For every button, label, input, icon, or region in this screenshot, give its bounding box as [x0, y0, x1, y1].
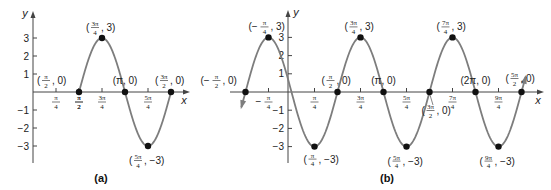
x-tick-label: 5π4 — [403, 94, 411, 111]
y-tick-label: −2 — [18, 123, 30, 134]
svg-text:, −3): , −3) — [319, 154, 339, 165]
y-tick-label: −3 — [18, 141, 30, 152]
x-tick-label: π4 — [311, 94, 319, 111]
x-tick-label: 3π4 — [98, 94, 106, 111]
y-tick-label: 3 — [23, 33, 29, 44]
svg-text:5π: 5π — [403, 94, 411, 102]
svg-text:, 0): , 0) — [52, 75, 66, 86]
panel-caption: (a) — [94, 172, 108, 184]
svg-text:4: 4 — [352, 28, 356, 36]
svg-text:(: ( — [506, 73, 510, 84]
svg-text:π: π — [54, 94, 58, 102]
x-tick-label: π4 — [52, 94, 60, 111]
point-label: (3π2, 0) — [155, 73, 184, 90]
key-point — [242, 89, 248, 95]
svg-text:4: 4 — [313, 103, 317, 111]
x-tick-label: π2 — [75, 94, 83, 111]
panel-a: xy321−1−2−3π4π23π45π4π2(π2, 0)(3π4, 3)(π… — [18, 7, 190, 184]
y-tick-label: 3 — [278, 32, 284, 43]
sine-graphs-figure: xy321−1−2−3π4π23π45π4π2(π2, 0)(3π4, 3)(π… — [0, 0, 551, 190]
y-tick-label: −3 — [273, 141, 285, 152]
svg-text:4: 4 — [93, 29, 97, 37]
point-label: (π, 0) — [113, 75, 138, 86]
svg-text:(π, 0): (π, 0) — [371, 75, 396, 86]
svg-text:5π: 5π — [144, 94, 152, 102]
svg-text:2: 2 — [513, 80, 517, 88]
x-axis-label: x — [534, 94, 541, 106]
key-point — [357, 34, 363, 40]
svg-text:5π: 5π — [393, 154, 401, 162]
svg-text:4: 4 — [405, 103, 409, 111]
svg-text:(: ( — [388, 156, 392, 167]
svg-text:4: 4 — [487, 162, 491, 170]
key-point — [99, 35, 105, 41]
panel-b: xy321−1−2−3π4−π43π45π47π49π4(−π2, 0)(−π4… — [201, 6, 545, 184]
key-point — [265, 34, 271, 40]
svg-text:9π: 9π — [495, 94, 503, 102]
x-tick-label: 5π4 — [144, 94, 152, 111]
svg-text:2: 2 — [44, 82, 48, 90]
svg-text:(−: (− — [201, 75, 210, 86]
y-tick-label: −2 — [273, 123, 285, 134]
point-label: (π2, 0) — [37, 73, 66, 90]
svg-text:−: − — [256, 96, 262, 107]
svg-text:5π: 5π — [511, 71, 519, 79]
x-axis-label: x — [180, 94, 187, 106]
svg-text:2: 2 — [162, 82, 166, 90]
svg-text:, 3): , 3) — [271, 21, 285, 32]
point-label: (2π, 0) — [460, 75, 490, 86]
point-label: (3π4, 3) — [86, 20, 115, 37]
y-tick-label: 1 — [23, 69, 29, 80]
svg-text:π: π — [77, 94, 81, 102]
svg-text:(π, 0): (π, 0) — [113, 75, 138, 86]
y-axis-arrow-icon — [31, 11, 36, 18]
svg-text:3π: 3π — [427, 103, 435, 111]
svg-text:4: 4 — [497, 103, 501, 111]
svg-text:(: ( — [345, 21, 349, 32]
svg-text:7π: 7π — [442, 19, 450, 27]
svg-text:, 3): , 3) — [452, 21, 466, 32]
svg-text:π: π — [311, 152, 315, 160]
svg-text:4: 4 — [267, 103, 271, 111]
svg-text:3π: 3π — [350, 19, 358, 27]
svg-text:, 0): , 0) — [437, 105, 451, 116]
svg-text:, 0): , 0) — [223, 75, 237, 86]
svg-text:π: π — [215, 73, 219, 81]
x-tick-label: 9π4 — [495, 94, 503, 111]
svg-text:4: 4 — [263, 28, 267, 36]
y-tick-label: 2 — [23, 51, 29, 62]
y-tick-label: −1 — [18, 105, 30, 116]
svg-text:3π: 3π — [160, 73, 168, 81]
key-point — [145, 143, 151, 149]
svg-text:2: 2 — [215, 82, 219, 90]
svg-text:9π: 9π — [485, 154, 493, 162]
point-label: (π2, 0) — [322, 73, 351, 90]
svg-text:4: 4 — [451, 103, 455, 111]
point-label: (7π4, 3) — [437, 19, 466, 36]
svg-text:3π: 3π — [357, 94, 365, 102]
svg-text:7π: 7π — [449, 94, 457, 102]
svg-text:2: 2 — [77, 103, 81, 111]
key-point — [449, 34, 455, 40]
y-axis-arrow-icon — [286, 10, 291, 17]
key-point — [472, 89, 478, 95]
key-point — [518, 89, 524, 95]
key-point — [168, 89, 174, 95]
svg-text:(: ( — [86, 22, 90, 33]
svg-text:3π: 3π — [98, 94, 106, 102]
point-label: (−π2, 0) — [201, 73, 237, 90]
svg-text:3π: 3π — [91, 20, 99, 28]
key-point — [403, 143, 409, 149]
curve-arrow-icon — [240, 100, 246, 109]
svg-text:, 0): , 0) — [521, 73, 535, 84]
y-tick-label: −1 — [273, 105, 285, 116]
panel-caption: (b) — [380, 172, 394, 184]
svg-text:4: 4 — [395, 162, 399, 170]
x-tick-label: 3π4 — [357, 94, 365, 111]
svg-text:, 3): , 3) — [101, 22, 115, 33]
key-point — [122, 89, 128, 95]
svg-text:, −3): , −3) — [144, 155, 164, 166]
point-label: (9π4, −3) — [480, 154, 515, 171]
point-label: (5π4, −3) — [129, 153, 164, 170]
svg-text:2: 2 — [329, 82, 333, 90]
